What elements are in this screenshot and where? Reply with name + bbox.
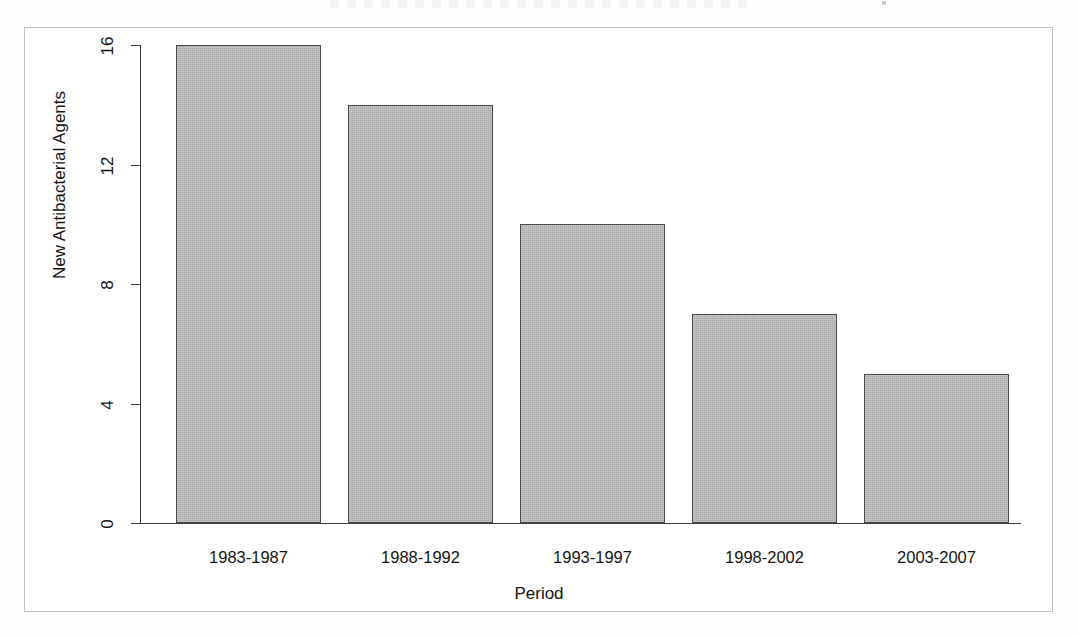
y-tick-label-16: 16 — [98, 26, 118, 66]
y-tick-mark-16 — [131, 45, 140, 46]
x-category-label-3: 1998-2002 — [692, 548, 837, 567]
y-tick-label-4: 4 — [98, 385, 118, 425]
x-axis-title: Period — [0, 584, 1078, 604]
y-tick-mark-8 — [131, 284, 140, 285]
x-category-label-2: 1993-1997 — [520, 548, 665, 567]
bar-chart-plot-area: 0 4 8 12 16 New Antibacterial Agents Per… — [0, 0, 1078, 636]
y-axis-title: New Antibacterial Agents — [50, 85, 70, 285]
bar-1 — [348, 105, 493, 523]
scanned-page: 0 4 8 12 16 New Antibacterial Agents Per… — [0, 0, 1078, 636]
y-axis-line — [140, 45, 141, 524]
bar-0 — [176, 45, 321, 523]
y-tick-mark-0 — [131, 523, 140, 524]
x-axis-line — [140, 523, 1021, 524]
x-category-label-4: 2003-2007 — [864, 548, 1009, 567]
y-tick-mark-4 — [131, 404, 140, 405]
x-category-label-0: 1983-1987 — [176, 548, 321, 567]
y-tick-mark-12 — [131, 165, 140, 166]
y-tick-label-0: 0 — [98, 504, 118, 544]
y-tick-label-8: 8 — [98, 265, 118, 305]
bar-4 — [864, 374, 1009, 523]
y-tick-label-12: 12 — [98, 146, 118, 186]
bar-3 — [692, 314, 837, 523]
bar-2 — [520, 224, 665, 523]
x-category-label-1: 1988-1992 — [348, 548, 493, 567]
